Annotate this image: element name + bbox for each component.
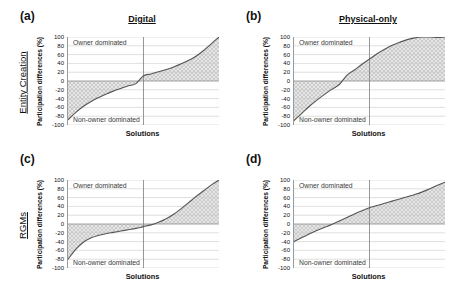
panel-b-ytick-80: 80 (283, 43, 290, 49)
panel-b-ytick-60: 60 (283, 52, 290, 58)
panel-c-ytick-40: 40 (57, 203, 64, 209)
figure-container: (a) Digital Entity Creation Participatio… (0, 0, 452, 286)
panel-d-ytick-80: 80 (283, 186, 290, 192)
panel-d-ytick--80: -80 (281, 256, 290, 262)
panel-b-ytick--100: -100 (278, 122, 290, 128)
panel-b-ytick-20: 20 (283, 69, 290, 75)
panel-c-ytick--80: -80 (55, 256, 64, 262)
panel-a-ytick-20: 20 (57, 69, 64, 75)
panel-a-ytick-100: 100 (54, 34, 64, 40)
row-label-rgms: RGMs (12, 179, 32, 271)
panel-a-svg (68, 37, 219, 125)
panel-b-svg (294, 37, 445, 125)
panel-d-letter: (d) (246, 152, 261, 166)
panel-c-xlabel: Solutions (67, 272, 218, 281)
panel-b-ytick--20: -20 (281, 87, 290, 93)
panel-d-ytick-40: 40 (283, 203, 290, 209)
panel-a-ytick-40: 40 (57, 60, 64, 66)
panel-c-ytick-0: 0 (61, 221, 64, 227)
panel-b-ytick--40: -40 (281, 96, 290, 102)
panel-b-ytick--60: -60 (281, 104, 290, 110)
panel-a-ytick--20: -20 (55, 87, 64, 93)
panel-b-ytick-0: 0 (287, 78, 290, 84)
panel-b: (b) Physical-only Participation differen… (226, 0, 452, 143)
panel-d-ytick--40: -40 (281, 239, 290, 245)
panel-c-ytick-60: 60 (57, 195, 64, 201)
panel-c-letter: (c) (20, 152, 35, 166)
panel-d-xlabel: Solutions (293, 272, 444, 281)
panel-d-ytick-100: 100 (280, 177, 290, 183)
panel-a-ytick-80: 80 (57, 43, 64, 49)
panel-b-ytick-40: 40 (283, 60, 290, 66)
panel-a-ytick-0: 0 (61, 78, 64, 84)
column-title-digital: Digital (62, 14, 222, 24)
panel-b-yticks: 100806040200-20-40-60-80-100 (270, 33, 291, 125)
panel-d-yticks: 100806040200-20-40-60-80-100 (270, 176, 291, 268)
row-label-rgms-text: RGMs (17, 212, 28, 239)
panel-d-ytick--100: -100 (278, 265, 290, 271)
panel-c-plot (67, 180, 219, 268)
panel-a-xlabel: Solutions (67, 129, 218, 138)
panel-d: (d) Participation differences (%) 100806… (226, 143, 452, 286)
panel-c: (c) RGMs Participation differences (%) 1… (0, 143, 226, 286)
panel-d-ytick-20: 20 (283, 212, 290, 218)
column-title-physical-only: Physical-only (288, 14, 448, 24)
panel-c-ytick-80: 80 (57, 186, 64, 192)
panel-a-ytick-60: 60 (57, 52, 64, 58)
panel-d-ytick-0: 0 (287, 221, 290, 227)
panel-b-letter: (b) (246, 9, 261, 23)
panel-c-ytick--100: -100 (52, 265, 64, 271)
panel-d-plot (293, 180, 445, 268)
panel-a-plot (67, 37, 219, 125)
panel-d-ytick-60: 60 (283, 195, 290, 201)
panel-c-ytick--20: -20 (55, 230, 64, 236)
panel-c-ytick--60: -60 (55, 247, 64, 253)
panel-d-ytick--20: -20 (281, 230, 290, 236)
panel-a-ytick--100: -100 (52, 122, 64, 128)
panel-a-ytick--80: -80 (55, 113, 64, 119)
row-label-entity-creation-text: Entity Creation (17, 51, 28, 113)
panel-a: (a) Digital Entity Creation Participatio… (0, 0, 226, 143)
panel-a-ytick--40: -40 (55, 96, 64, 102)
panel-c-ytick-100: 100 (54, 177, 64, 183)
panel-d-ytick--60: -60 (281, 247, 290, 253)
panel-a-yticks: 100806040200-20-40-60-80-100 (44, 33, 65, 125)
panel-c-ytick-20: 20 (57, 212, 64, 218)
panel-d-svg (294, 180, 445, 268)
panel-c-ytick--40: -40 (55, 239, 64, 245)
panel-c-svg (68, 180, 219, 268)
panel-a-ytick--60: -60 (55, 104, 64, 110)
row-label-entity-creation: Entity Creation (12, 36, 32, 128)
panel-a-letter: (a) (20, 9, 35, 23)
panel-b-plot (293, 37, 445, 125)
panel-b-xlabel: Solutions (293, 129, 444, 138)
panel-c-yticks: 100806040200-20-40-60-80-100 (44, 176, 65, 268)
panel-b-ytick-100: 100 (280, 34, 290, 40)
panel-b-ytick--80: -80 (281, 113, 290, 119)
